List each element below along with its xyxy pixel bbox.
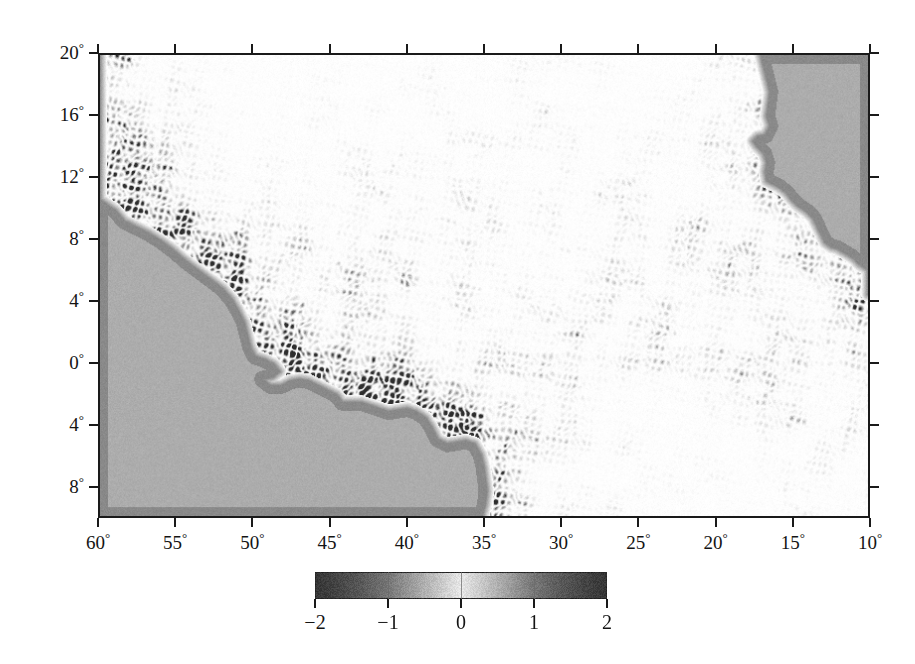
- y-tick-label: 4°: [30, 415, 84, 434]
- y-tick-mark: [89, 176, 98, 178]
- y-tick-mark-right: [870, 486, 879, 488]
- x-tick-mark: [329, 518, 331, 527]
- y-tick-mark: [89, 238, 98, 240]
- colorbar-tick-mark: [387, 599, 389, 608]
- colorbar-tick-mark: [606, 599, 608, 608]
- x-tick-label: 55°: [145, 533, 205, 552]
- figure-root: 20°16°12°8°4°0°4°8° 60°55°50°45°40°35°30…: [0, 0, 915, 664]
- x-tick-mark: [560, 518, 562, 527]
- y-tick-mark-right: [870, 424, 879, 426]
- x-tick-mark-top: [97, 44, 99, 53]
- colorbar-segment-line: [461, 572, 462, 599]
- x-tick-label: 45°: [300, 533, 360, 552]
- colorbar-tick-label: −1: [358, 612, 418, 632]
- colorbar-tick-label: 0: [431, 612, 491, 632]
- x-tick-mark: [715, 518, 717, 527]
- y-tick-mark-right: [870, 362, 879, 364]
- x-tick-mark-top: [329, 44, 331, 53]
- colorbar-tick-mark: [314, 599, 316, 608]
- x-tick-label: 25°: [608, 533, 668, 552]
- x-tick-mark: [406, 518, 408, 527]
- x-tick-mark-top: [715, 44, 717, 53]
- colorbar-tick-label: 1: [504, 612, 564, 632]
- ocean-anomaly-heatmap: [100, 55, 868, 516]
- colorbar-tick-mark: [460, 599, 462, 608]
- colorbar-segment-line: [534, 572, 535, 599]
- x-tick-label: 50°: [222, 533, 282, 552]
- y-tick-mark: [89, 114, 98, 116]
- x-tick-mark-top: [483, 44, 485, 53]
- y-tick-label: 12°: [30, 167, 84, 186]
- x-tick-mark-top: [251, 44, 253, 53]
- y-tick-label: 0°: [30, 353, 84, 372]
- x-tick-mark-top: [637, 44, 639, 53]
- x-tick-mark: [869, 518, 871, 527]
- y-tick-mark-right: [870, 114, 879, 116]
- colorbar-segment-line: [388, 572, 389, 599]
- y-tick-label: 16°: [30, 105, 84, 124]
- x-tick-mark: [483, 518, 485, 527]
- y-tick-mark-right: [870, 300, 879, 302]
- y-tick-mark: [89, 362, 98, 364]
- map-plot-area: [98, 53, 870, 518]
- x-tick-mark-top: [792, 44, 794, 53]
- x-tick-mark-top: [174, 44, 176, 53]
- x-tick-mark: [174, 518, 176, 527]
- y-tick-mark: [89, 486, 98, 488]
- colorbar-tick-label: 2: [577, 612, 637, 632]
- x-tick-mark: [637, 518, 639, 527]
- y-tick-mark-right: [870, 238, 879, 240]
- x-tick-mark-top: [869, 44, 871, 53]
- x-tick-label: 60°: [68, 533, 128, 552]
- colorbar-tick-label: −2: [285, 612, 345, 632]
- y-tick-mark: [89, 424, 98, 426]
- x-tick-mark: [251, 518, 253, 527]
- y-tick-label: 8°: [30, 477, 84, 496]
- x-tick-label: 10°: [840, 533, 900, 552]
- x-tick-label: 15°: [763, 533, 823, 552]
- y-tick-mark: [89, 300, 98, 302]
- x-tick-label: 30°: [531, 533, 591, 552]
- x-tick-mark-top: [560, 44, 562, 53]
- x-tick-label: 20°: [686, 533, 746, 552]
- x-tick-mark: [792, 518, 794, 527]
- y-tick-mark-right: [870, 176, 879, 178]
- x-tick-label: 40°: [377, 533, 437, 552]
- x-tick-mark-top: [406, 44, 408, 53]
- x-tick-label: 35°: [454, 533, 514, 552]
- y-tick-label: 4°: [30, 291, 84, 310]
- y-tick-mark-right: [870, 52, 879, 54]
- x-tick-mark: [97, 518, 99, 527]
- colorbar-tick-mark: [533, 599, 535, 608]
- y-tick-label: 20°: [30, 43, 84, 62]
- y-tick-label: 8°: [30, 229, 84, 248]
